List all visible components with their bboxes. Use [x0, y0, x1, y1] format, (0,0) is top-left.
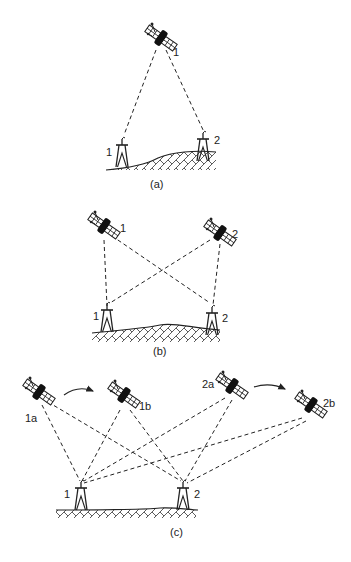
panel-caption: (c)	[170, 526, 183, 538]
panel-caption: (a)	[150, 178, 163, 190]
signal-line	[213, 244, 220, 305]
signal-line	[110, 240, 210, 303]
satellite-label: 2b	[323, 397, 335, 409]
satellite-icon	[20, 376, 57, 409]
signal-line	[124, 50, 156, 135]
satellite-label: 2	[232, 228, 238, 240]
satellite-label: 1a	[25, 412, 38, 424]
station-label: 2	[194, 488, 200, 500]
panel-a: 1 1 2 (a)	[106, 22, 220, 190]
station-label: 1	[106, 146, 112, 158]
panel-b: 1 2 1 2 (b)	[85, 210, 238, 357]
satellite-label: 2a	[202, 378, 215, 390]
ground-station-icon	[177, 480, 189, 510]
station-label: 2	[214, 134, 220, 146]
signal-line	[48, 402, 181, 481]
satellite-icon	[85, 210, 122, 243]
station-label: 1	[64, 488, 70, 500]
satellite-label: 1b	[139, 400, 151, 412]
signal-line	[42, 405, 80, 481]
signal-line	[130, 410, 183, 481]
signal-line	[84, 398, 225, 481]
signal-line	[82, 410, 120, 481]
satellite-tracking-diagram: 1 1 2 (a) 1 2 1 2 (b)	[0, 0, 351, 562]
ground-hatch	[92, 324, 220, 342]
satellite-icon	[213, 370, 250, 403]
satellite-label: 1	[120, 222, 126, 234]
motion-arrow	[64, 389, 93, 395]
ground-station-icon	[75, 480, 87, 510]
station-label: 2	[222, 312, 228, 324]
station-label: 1	[93, 310, 99, 322]
satellite-icon	[105, 379, 142, 412]
signal-line	[187, 421, 306, 483]
ground-station-icon	[101, 302, 113, 332]
ground-station-icon	[116, 137, 128, 167]
signal-line	[84, 418, 302, 483]
signal-line	[166, 50, 204, 132]
panel-c: 1a 1b 2a 2b 1 2 (c)	[20, 370, 335, 538]
satellite-label: 1	[173, 46, 179, 58]
signal-line	[104, 240, 107, 306]
motion-arrow	[254, 385, 285, 389]
panel-caption: (b)	[153, 345, 166, 357]
